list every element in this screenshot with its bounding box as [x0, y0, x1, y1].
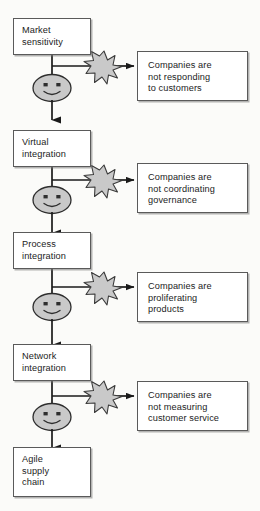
smiley-eye-left — [44, 83, 48, 86]
issue-label-proliferating-products: Companies are proliferating products — [148, 281, 212, 316]
smiley-eye-left — [44, 302, 48, 305]
smiley-eye-right — [56, 195, 60, 198]
issue-box-not-coordinating-governance[interactable]: Companies are not coordinating governanc… — [137, 163, 248, 213]
issue-box-not-measuring-customer-service[interactable]: Companies are not measuring customer ser… — [137, 381, 248, 431]
starburst-icon — [84, 51, 122, 84]
starburst-icon — [84, 381, 122, 414]
stage-box-process-integration[interactable]: Process integration — [13, 232, 91, 269]
smiley-face-icon — [33, 404, 71, 431]
stage-label-process-integration: Process integration — [22, 239, 66, 262]
stage-label-virtual-integration: Virtual integration — [22, 137, 66, 160]
connector-group-1 — [33, 51, 134, 120]
smiley-face-icon — [33, 187, 71, 214]
connector-group-4 — [33, 381, 134, 448]
smiley-eye-right — [56, 83, 60, 86]
smiley-eye-right — [56, 302, 60, 305]
stage-box-agile-supply-chain[interactable]: Agile supply chain — [13, 447, 91, 497]
starburst-icon — [84, 272, 122, 305]
smiley-eye-right — [56, 412, 60, 415]
stage-box-network-integration[interactable]: Network integration — [13, 344, 91, 381]
stage-box-virtual-integration[interactable]: Virtual integration — [13, 130, 91, 167]
connector-group-3 — [33, 269, 134, 345]
issue-box-proliferating-products[interactable]: Companies are proliferating products — [137, 272, 248, 322]
stage-box-market-sensitivity[interactable]: Market sensitivity — [13, 18, 91, 55]
agile-supply-chain-diagram: Market sensitivity Virtual integration P… — [0, 0, 260, 511]
stage-label-market-sensitivity: Market sensitivity — [22, 25, 63, 48]
starburst-icon — [84, 165, 122, 198]
issue-label-not-coordinating-governance: Companies are not coordinating governanc… — [148, 172, 215, 207]
issue-label-not-responding-to-customers: Companies are not responding to customer… — [148, 60, 212, 95]
smiley-eye-left — [44, 195, 48, 198]
issue-box-not-responding-to-customers[interactable]: Companies are not responding to customer… — [137, 51, 248, 101]
connector-group-2 — [33, 165, 134, 233]
stage-label-agile-supply-chain: Agile supply chain — [22, 454, 49, 489]
issue-label-not-measuring-customer-service: Companies are not measuring customer ser… — [148, 390, 219, 425]
smiley-face-icon — [33, 294, 71, 321]
stage-label-network-integration: Network integration — [22, 351, 66, 374]
smiley-eye-left — [44, 412, 48, 415]
smiley-face-icon — [33, 75, 71, 102]
